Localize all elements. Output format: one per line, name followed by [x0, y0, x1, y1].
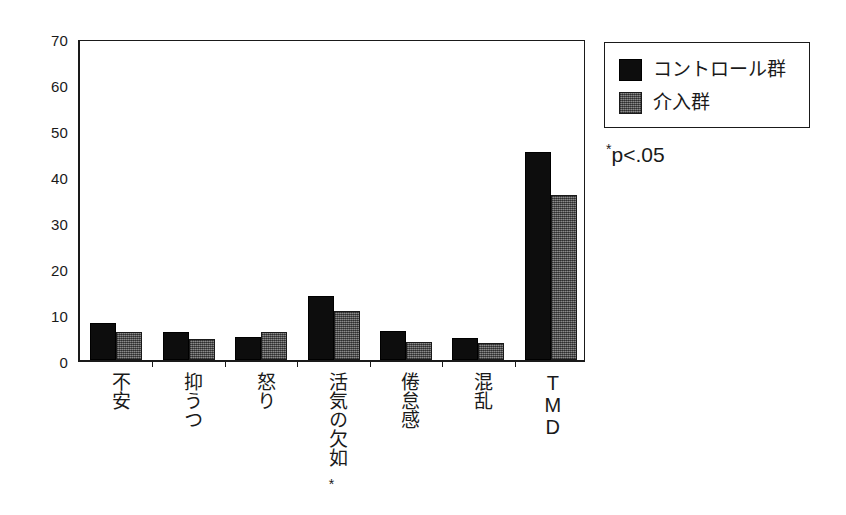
x-axis-category-label: 抑うつ — [172, 372, 202, 429]
y-axis-tick-label: 30 — [38, 217, 68, 232]
x-axis-category-label: 倦怠感 — [389, 372, 419, 429]
x-axis-category-label: TMD — [534, 372, 564, 438]
bar-intervention — [261, 332, 287, 360]
significance-note: *p<.05 — [606, 142, 665, 165]
y-axis-tick-label: 20 — [38, 263, 68, 278]
bar-control — [90, 323, 116, 360]
x-axis-tick-mark — [225, 360, 226, 367]
y-axis-tick-label: 50 — [38, 125, 68, 140]
bar-control — [163, 332, 189, 360]
chart-legend: コントロール群 介入群 — [604, 42, 810, 128]
legend-item-control: コントロール群 — [619, 53, 809, 86]
bar-intervention — [478, 343, 504, 360]
significance-text: p<.05 — [611, 143, 664, 166]
y-axis-tick-label: 60 — [38, 79, 68, 94]
legend-label-intervention: 介入群 — [653, 93, 710, 112]
bar-control — [525, 152, 551, 360]
bar-control — [235, 337, 261, 360]
bar-intervention — [406, 342, 432, 360]
x-axis-tick-mark — [152, 360, 153, 367]
legend-swatch-control-icon — [619, 59, 642, 81]
bar-intervention — [116, 332, 142, 360]
bar-intervention — [189, 339, 215, 360]
x-axis-tick-mark — [370, 360, 371, 367]
y-axis-tick-label: 10 — [38, 309, 68, 324]
legend-item-intervention: 介入群 — [619, 86, 809, 119]
bar-intervention — [551, 195, 577, 360]
x-axis-category-label: 活気の欠如 — [317, 372, 347, 467]
y-axis-tick-label: 70 — [38, 33, 68, 48]
x-axis-category-label: 不安 — [99, 372, 129, 410]
legend-swatch-intervention-icon — [619, 92, 642, 114]
bar-intervention — [334, 311, 360, 360]
bar-control — [308, 296, 334, 360]
bar-control — [452, 338, 478, 360]
y-axis-tick-label: 0 — [38, 355, 68, 370]
legend-label-control: コントロール群 — [653, 60, 786, 79]
category-significance-marker: * — [317, 476, 347, 492]
x-axis-category-label: 混乱 — [461, 372, 491, 410]
y-axis-tick-label: 40 — [38, 171, 68, 186]
x-axis-category-label: 怒り — [244, 372, 274, 410]
x-axis-tick-mark — [442, 360, 443, 367]
x-axis-tick-mark — [297, 360, 298, 367]
plot-area — [78, 40, 585, 362]
bar-control — [380, 331, 406, 360]
bar-chart-figure: 010203040506070 不安抑うつ怒り活気の欠如*倦怠感混乱TMD コン… — [0, 0, 846, 515]
x-axis-tick-mark — [515, 360, 516, 367]
